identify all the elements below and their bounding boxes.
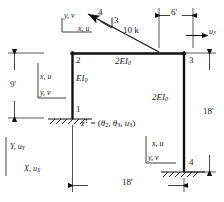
node-label-3: 3: [189, 56, 194, 65]
member-right-column-label: 2EI0: [152, 93, 168, 102]
dimension-18ft-vertical-label: 18': [203, 107, 214, 116]
global-axis-Y-label: Y, uY: [10, 143, 25, 152]
load-magnitude-label: 10 k: [123, 26, 139, 35]
frame-diagram: 4 3 10 k 6' u3 y, v x, u x, u y, v x, u …: [0, 0, 224, 202]
axes-right-column-vertical-label: y, v: [148, 154, 159, 162]
frame-members: [72, 53, 186, 172]
node-label-2: 2: [76, 56, 81, 65]
load-slope-run-label: 4: [98, 8, 103, 17]
axes-top-left-vertical-label: y, v: [64, 12, 75, 20]
support-node-4: [161, 172, 205, 177]
member-left-column-label: EI0: [76, 74, 88, 83]
axes-left-column-vertical-label: y, v: [40, 89, 51, 97]
global-axis-X-label: X, uX: [24, 165, 40, 174]
dimension-9ft-label: 9': [10, 80, 16, 89]
axes-right-column-horizontal-label: x, u: [152, 140, 164, 148]
dof-u3-label: u3: [209, 28, 216, 37]
axes-top-left-horizontal-label: x, u: [78, 25, 90, 33]
dimension-18ft-span-label: 18': [122, 178, 133, 187]
axes-left-column-horizontal-label: x, u: [40, 73, 52, 81]
node-label-4: 4: [189, 158, 194, 167]
member-top-beam-label: 2EI0: [115, 57, 131, 66]
dof-vector-equation: zT = (θ2, θ3, u3): [81, 118, 135, 128]
node-label-1: 1: [76, 105, 81, 114]
load-slope-rise-label: 3: [114, 16, 119, 25]
dimension-6ft-label: 6': [171, 8, 177, 17]
